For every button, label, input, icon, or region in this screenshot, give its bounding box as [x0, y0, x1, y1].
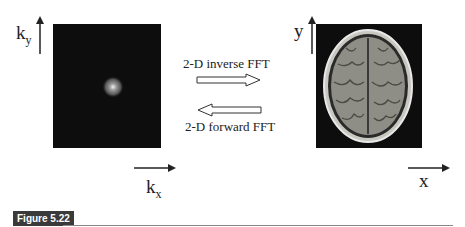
- figure-label: Figure 5.22: [13, 211, 74, 226]
- k-space-image: [53, 24, 161, 148]
- ky-label: ky: [16, 22, 32, 48]
- brain-slice: [316, 24, 422, 148]
- y-axis-arrow: [308, 16, 316, 58]
- kx-label: kx: [146, 176, 162, 202]
- k-space-center-spot: [53, 24, 161, 148]
- kx-axis-arrow: [134, 158, 176, 176]
- inverse-fft-label: 2-D inverse FFT: [183, 56, 270, 72]
- y-label: y: [294, 20, 304, 42]
- inverse-fft-arrow: [196, 73, 262, 91]
- ky-axis-arrow: [36, 16, 44, 58]
- caption-rule: [63, 225, 453, 226]
- x-axis-arrow: [408, 158, 450, 176]
- mri-brain-image: [316, 24, 422, 148]
- forward-fft-label: 2-D forward FFT: [185, 119, 275, 135]
- x-label: x: [419, 170, 429, 192]
